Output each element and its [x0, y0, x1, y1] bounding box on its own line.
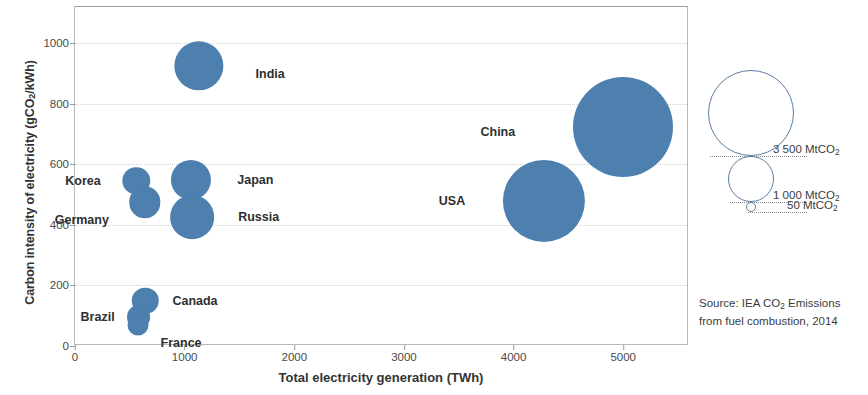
- bubble-india[interactable]: [174, 41, 223, 90]
- size-legend-label-0: 3 500 MtCO2: [773, 143, 840, 157]
- size-legend: 3 500 MtCO21 000 MtCO250 MtCO2: [695, 70, 868, 260]
- bubble-japan[interactable]: [171, 159, 211, 199]
- size-legend-circle-1: [728, 156, 774, 202]
- x-axis-tick-label: 0: [72, 351, 78, 363]
- size-legend-label-2: 50 MtCO2: [787, 199, 838, 213]
- x-axis-tick-label: 3000: [391, 351, 417, 363]
- size-legend-subscript-0: 2: [835, 148, 840, 157]
- y-axis-tick-label: 200: [50, 279, 69, 291]
- gridline: [75, 225, 687, 226]
- bubble-germany[interactable]: [129, 187, 160, 218]
- bubble-china[interactable]: [573, 77, 673, 177]
- source-note: Source: IEA CO2 Emissions from fuel comb…: [699, 296, 867, 329]
- bubble-label-china: China: [480, 125, 515, 139]
- x-axis-title: Total electricity generation (TWh): [74, 370, 688, 385]
- y-axis-tick-label: 1000: [43, 37, 69, 49]
- gridline: [75, 285, 687, 286]
- y-axis-title: Carbon intensity of electricity (gCO2/kW…: [23, 12, 38, 352]
- bubble-label-france: France: [161, 336, 202, 350]
- bubble-label-india: India: [256, 67, 285, 81]
- gridline: [75, 43, 687, 44]
- x-axis-tick-label: 4000: [501, 351, 527, 363]
- x-axis-tick-label: 1000: [172, 351, 198, 363]
- y-axis-tick-label: 600: [50, 158, 69, 170]
- bubble-label-canada: Canada: [172, 294, 217, 308]
- bubble-france[interactable]: [128, 314, 149, 335]
- bubble-label-usa: USA: [439, 194, 465, 208]
- bubble-label-korea: Korea: [65, 174, 100, 188]
- x-axis-tick-label: 2000: [281, 351, 307, 363]
- plot-area: 02004006008001000 010002000300040005000 …: [74, 6, 688, 345]
- size-legend-subscript-2: 2: [833, 204, 838, 213]
- bubble-label-japan: Japan: [237, 173, 273, 187]
- size-legend-circle-2: [746, 202, 756, 212]
- bubble-label-brazil: Brazil: [81, 310, 115, 324]
- x-axis-tick-label: 5000: [610, 351, 636, 363]
- y-axis-tick-label: 0: [63, 340, 69, 352]
- bubble-label-germany: Germany: [55, 213, 109, 227]
- bubble-label-russia: Russia: [238, 210, 279, 224]
- chart-figure: Carbon intensity of electricity (gCO2/kW…: [0, 0, 868, 395]
- y-axis-tick-label: 800: [50, 98, 69, 110]
- bubble-usa[interactable]: [503, 160, 585, 242]
- y-axis-title-subscript: 2: [27, 94, 37, 99]
- bubble-russia[interactable]: [170, 196, 214, 240]
